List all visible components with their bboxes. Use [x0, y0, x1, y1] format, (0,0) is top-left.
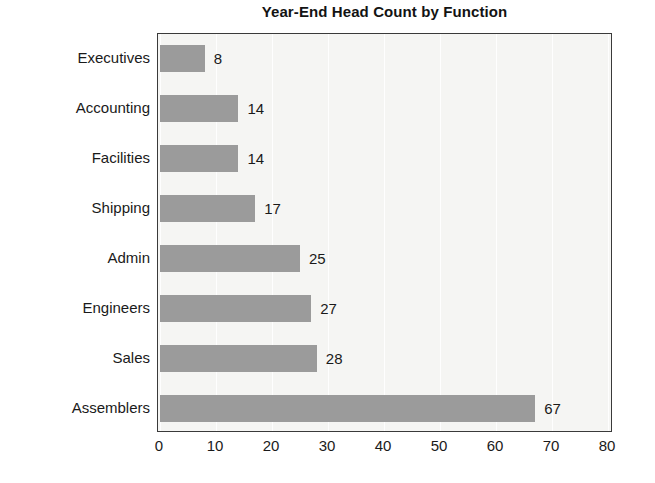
bar-value-label: 14 [247, 101, 264, 116]
bar-chart: Year-End Head Count by Function Executiv… [0, 0, 655, 483]
bar-row: 27 [160, 295, 337, 322]
category-label: Facilities [0, 144, 150, 171]
bar[interactable] [160, 245, 300, 272]
category-label: Shipping [0, 194, 150, 221]
x-tick-label: 60 [487, 437, 504, 454]
x-tick-label: 40 [375, 437, 392, 454]
category-label: Engineers [0, 294, 150, 321]
bar-value-label: 28 [326, 351, 343, 366]
bar[interactable] [160, 45, 205, 72]
bar-value-label: 14 [247, 151, 264, 166]
bar-value-label: 8 [214, 51, 222, 66]
x-tick-label: 50 [431, 437, 448, 454]
bar-value-label: 17 [264, 201, 281, 216]
bar-row: 25 [160, 245, 326, 272]
bars-layer: 814141725272867 [158, 34, 611, 431]
x-tick-label: 0 [155, 437, 163, 454]
category-label: Executives [0, 44, 150, 71]
category-label: Admin [0, 244, 150, 271]
bar-row: 28 [160, 345, 342, 372]
x-tick-label: 70 [543, 437, 560, 454]
x-tick-label: 80 [599, 437, 616, 454]
y-axis-category-labels: ExecutivesAccountingFacilitiesShippingAd… [0, 33, 150, 432]
bar-row: 67 [160, 395, 561, 422]
x-axis-tick-labels: 01020304050607080 [157, 437, 612, 461]
bar[interactable] [160, 145, 238, 172]
bar[interactable] [160, 195, 255, 222]
x-tick-label: 20 [263, 437, 280, 454]
bar-value-label: 67 [544, 401, 561, 416]
bar[interactable] [160, 295, 311, 322]
category-label: Sales [0, 344, 150, 371]
bar-row: 14 [160, 145, 264, 172]
bar-row: 17 [160, 195, 281, 222]
bar[interactable] [160, 345, 317, 372]
plot-area: 814141725272867 [157, 33, 612, 432]
chart-title: Year-End Head Count by Function [157, 3, 612, 20]
category-label: Accounting [0, 94, 150, 121]
x-tick-label: 10 [207, 437, 224, 454]
bar-value-label: 25 [309, 251, 326, 266]
x-tick-label: 30 [319, 437, 336, 454]
bar-row: 14 [160, 95, 264, 122]
bar[interactable] [160, 395, 535, 422]
bar-row: 8 [160, 45, 222, 72]
category-label: Assemblers [0, 394, 150, 421]
bar-value-label: 27 [320, 301, 337, 316]
bar[interactable] [160, 95, 238, 122]
